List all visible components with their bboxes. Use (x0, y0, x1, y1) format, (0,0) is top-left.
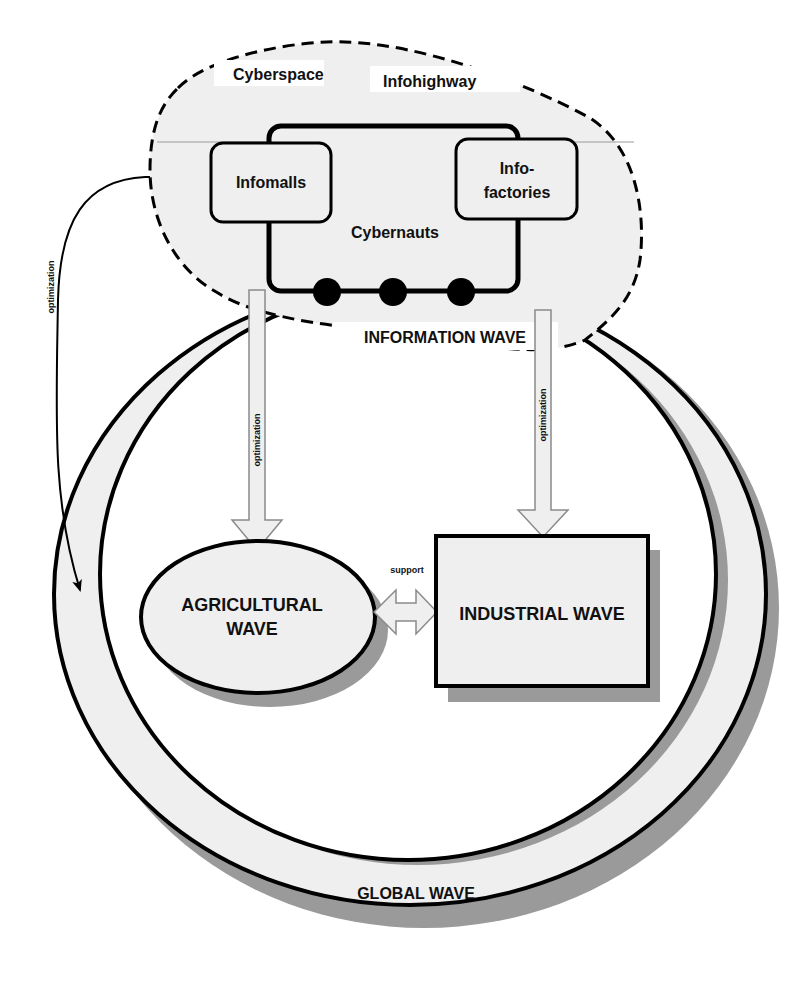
support-label: support (390, 565, 424, 575)
optimization-label: optimization (46, 261, 56, 314)
industrial-wave-node[interactable]: INDUSTRIAL WAVE (436, 536, 660, 702)
waves-diagram: Cyberspace Infohighway Infomalls Info- f… (0, 0, 812, 983)
global-wave-label: GLOBAL WAVE (357, 885, 475, 902)
infohighway-label: Infohighway (383, 73, 476, 90)
optimization-label: optimization (538, 389, 548, 442)
optimization-label: optimization (252, 414, 262, 467)
cybernaut-dot (313, 278, 341, 306)
information-wave-cloud: Cyberspace Infohighway Infomalls Info- f… (150, 42, 642, 350)
agricultural-label-line1: AGRICULTURAL (181, 595, 323, 615)
infofactories-label-line1: Info- (500, 160, 535, 177)
cyberspace-label: Cyberspace (233, 66, 324, 83)
industrial-label: INDUSTRIAL WAVE (459, 604, 624, 624)
agricultural-label-line2: WAVE (226, 619, 278, 639)
information-wave-label: INFORMATION WAVE (364, 329, 526, 346)
cybernaut-dot (447, 278, 475, 306)
cybernaut-dot (379, 278, 407, 306)
cybernauts-label: Cybernauts (351, 224, 439, 241)
infomalls-label: Infomalls (236, 174, 306, 191)
agricultural-ellipse (141, 541, 375, 693)
infofactories-node[interactable] (456, 139, 577, 219)
infofactories-label-line2: factories (484, 184, 551, 201)
